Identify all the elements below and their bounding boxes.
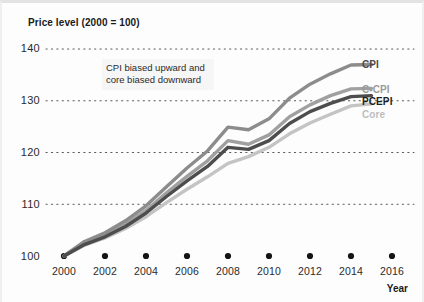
tick-dot-2010	[266, 253, 272, 259]
data-series-group	[64, 65, 372, 256]
tick-dot-2016	[389, 253, 395, 259]
x-tick-label-2016: 2016	[372, 265, 412, 277]
chart-frame: Price level (2000 = 100) 140 130 120 110…	[0, 0, 424, 302]
tick-dot-2008	[225, 253, 231, 259]
series-label-core: Core	[362, 109, 385, 120]
y-tick-label-120: 120	[10, 146, 40, 158]
tick-dot-2014	[348, 253, 354, 259]
y-tick-label-100: 100	[10, 250, 40, 262]
x-tick-label-2004: 2004	[126, 265, 166, 277]
tick-dot-2006	[184, 253, 190, 259]
series-label-c-cpi: C-CPI	[362, 84, 390, 95]
chart-plot-area	[2, 3, 424, 302]
tick-dot-2002	[102, 253, 108, 259]
tick-dot-2012	[307, 253, 313, 259]
x-axis-tick-dots	[61, 253, 395, 259]
y-tick-label-140: 140	[10, 42, 40, 54]
y-tick-label-130: 130	[10, 94, 40, 106]
tick-dot-2004	[143, 253, 149, 259]
x-tick-label-2006: 2006	[167, 265, 207, 277]
x-tick-label-2012: 2012	[290, 265, 330, 277]
x-tick-label-2000: 2000	[44, 265, 84, 277]
x-axis-title: Year	[387, 283, 408, 294]
x-tick-label-2008: 2008	[208, 265, 248, 277]
series-label-cpi: CPI	[362, 59, 379, 70]
x-tick-label-2002: 2002	[85, 265, 125, 277]
y-tick-label-110: 110	[10, 198, 40, 210]
x-tick-label-2014: 2014	[331, 265, 371, 277]
series-label-pcepi: PCEPI	[362, 96, 393, 107]
chart-annotation: CPI biased upward and core biased downwa…	[102, 59, 214, 90]
series-line-cpi	[64, 65, 372, 256]
x-tick-label-2010: 2010	[249, 265, 289, 277]
